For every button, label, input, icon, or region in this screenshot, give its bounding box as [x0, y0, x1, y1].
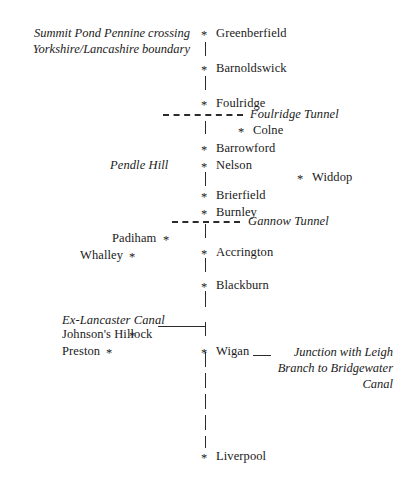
station-marker-widdop: * — [297, 173, 303, 186]
station-marker-preston: * — [106, 347, 112, 360]
tunnel-rule-foulridge — [163, 114, 243, 116]
station-label-barrowford: Barrowford — [216, 141, 275, 156]
route-line-segment — [205, 394, 206, 409]
station-marker-wigan: * — [201, 347, 207, 360]
station-marker-burnley: * — [201, 208, 207, 221]
station-label-blackburn: Blackburn — [216, 278, 269, 293]
route-line-segment — [205, 121, 206, 134]
station-label-whalley: Whalley — [80, 248, 123, 263]
landmark-label-ex-lancaster-canal: Ex-Lancaster Canal — [62, 313, 165, 328]
summit-caption-line-1: Summit Pond Pennine crossing — [14, 25, 190, 41]
station-marker-johnsons-hillock: * — [129, 330, 135, 343]
tunnel-label-gannow: Gannow Tunnel — [248, 214, 329, 229]
canal-route-diagram: Summit Pond Pennine crossing Yorkshire/L… — [0, 0, 400, 481]
station-label-brierfield: Brierfield — [216, 188, 266, 203]
station-label-colne: Colne — [253, 123, 283, 138]
station-marker-greenberfield: * — [201, 29, 207, 42]
station-label-liverpool: Liverpool — [216, 449, 266, 464]
station-label-preston: Preston — [62, 344, 100, 359]
summit-caption-line-2: Yorkshire/Lancashire boundary — [14, 41, 190, 57]
junction-note-line-2: Branch to Bridgewater — [243, 360, 393, 376]
station-label-nelson: Nelson — [216, 158, 252, 173]
route-line-segment — [205, 76, 206, 90]
route-line-segment — [205, 322, 206, 336]
route-line-segment — [205, 172, 206, 186]
station-marker-barrowford: * — [201, 144, 207, 157]
station-marker-colne: * — [238, 126, 244, 139]
station-label-accrington: Accrington — [216, 245, 273, 260]
station-marker-foulridge: * — [201, 99, 207, 112]
station-marker-brierfield: * — [201, 191, 207, 204]
connector-ex-lancaster-canal — [158, 326, 205, 327]
route-line-segment — [205, 42, 206, 56]
station-label-widdop: Widdop — [312, 170, 352, 185]
station-label-padiham: Padiham — [112, 231, 156, 246]
station-label-barnoldswick: Barnoldswick — [216, 61, 287, 76]
station-marker-whalley: * — [129, 251, 135, 264]
junction-note-line-1: Junction with Leigh — [243, 344, 393, 360]
station-marker-nelson: * — [201, 161, 207, 174]
tunnel-rule-gannow — [172, 221, 240, 223]
route-line-segment — [205, 373, 206, 388]
tunnel-label-foulridge: Foulridge Tunnel — [250, 107, 339, 122]
station-marker-liverpool: * — [201, 452, 207, 465]
station-marker-barnoldswick: * — [201, 64, 207, 77]
station-marker-blackburn: * — [201, 281, 207, 294]
route-line-segment — [205, 436, 206, 448]
summit-pond-caption: Summit Pond Pennine crossing Yorkshire/L… — [14, 25, 190, 57]
station-marker-accrington: * — [201, 248, 207, 261]
route-line-segment — [205, 415, 206, 430]
route-line-segment — [205, 224, 206, 238]
junction-note-leigh-branch: Junction with Leigh Branch to Bridgewate… — [243, 344, 393, 392]
junction-note-line-3: Canal — [243, 376, 393, 392]
station-label-johnsons-hillock: Johnson's Hillock — [62, 327, 152, 342]
station-label-greenberfield: Greenberfield — [216, 26, 287, 41]
station-marker-padiham: * — [163, 234, 169, 247]
landmark-label-pendle-hill: Pendle Hill — [110, 158, 168, 173]
